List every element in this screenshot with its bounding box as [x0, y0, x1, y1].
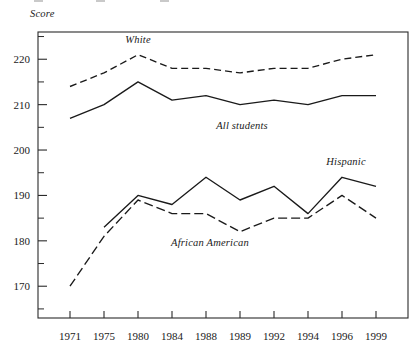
series-lines [70, 55, 376, 287]
series-label-all-students: All students [216, 120, 268, 131]
plot-frame [38, 32, 408, 318]
y-tick-label: 220 [4, 53, 30, 65]
y-axis-ticks [38, 37, 47, 309]
chart-container: Score 220210200190180170 197119751980198… [0, 0, 418, 354]
x-tick-label: 1999 [356, 330, 396, 342]
y-tick-label: 210 [4, 99, 30, 111]
series-line-white [70, 55, 376, 87]
series-label-white: White [125, 34, 151, 45]
y-tick-label: 190 [4, 189, 30, 201]
series-line-all-students [70, 82, 376, 118]
series-label-african-american: African American [171, 237, 249, 248]
y-tick-label: 170 [4, 280, 30, 292]
series-label-hispanic: Hispanic [326, 156, 366, 167]
y-tick-label: 200 [4, 144, 30, 156]
y-tick-label: 180 [4, 235, 30, 247]
plot-svg [0, 0, 418, 354]
x-axis-ticks [70, 311, 376, 318]
